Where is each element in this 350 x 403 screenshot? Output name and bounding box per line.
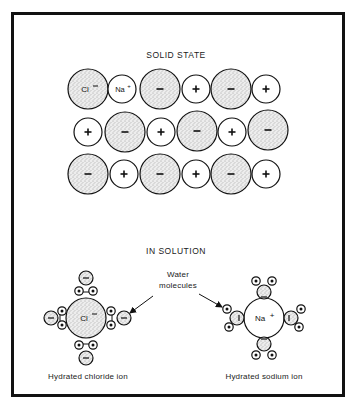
arrow-to-sodium-water	[199, 294, 222, 307]
water-pointer-arrows	[130, 294, 222, 313]
water-molecule-left	[223, 305, 244, 331]
svg-text:Cl: Cl	[80, 314, 88, 323]
water-molecule-right	[284, 305, 305, 331]
lattice-row-1	[68, 69, 280, 109]
crystal-lattice	[68, 69, 288, 194]
lattice-row-2	[74, 110, 288, 152]
hydrated-sodium-ion: Na +	[223, 277, 305, 359]
arrow-to-chloride-water	[130, 296, 153, 313]
svg-text:+: +	[270, 311, 275, 320]
na-symbol: Na	[115, 85, 125, 94]
diagram-graphics: Cl Na +	[0, 0, 350, 403]
lattice-row-3	[68, 154, 280, 194]
svg-text:+: +	[127, 83, 131, 89]
water-molecule-bottom	[252, 337, 276, 359]
ionic-dissolution-diagram: SOLID STATE IN SOLUTION Water molecules …	[0, 0, 350, 403]
water-molecule-right	[107, 307, 131, 329]
cl-symbol: Cl	[81, 85, 89, 94]
water-molecule-left	[44, 307, 66, 329]
svg-text:Na: Na	[255, 314, 266, 323]
water-molecule-top	[252, 277, 276, 299]
hydrated-chloride-ion: Cl	[44, 271, 131, 365]
